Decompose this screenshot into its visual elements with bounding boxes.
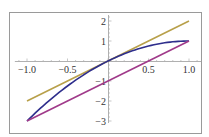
plot-area: −1.0−0.50.51.021−1−2−3: [0, 0, 209, 137]
x-tick-label: −0.5: [58, 64, 76, 75]
x-tick-label: 0.5: [142, 64, 155, 75]
y-tick-label: 2: [101, 16, 106, 27]
y-tick-label: −2: [95, 96, 106, 107]
x-tick-label: 1.0: [183, 64, 196, 75]
y-tick-label: 1: [101, 36, 106, 47]
y-tick-label: −3: [95, 116, 106, 127]
x-tick-label: −1.0: [18, 64, 36, 75]
